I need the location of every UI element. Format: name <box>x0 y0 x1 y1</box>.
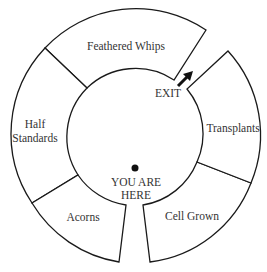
exit-arrow-icon <box>178 71 193 86</box>
label-feathered-whips: Feathered Whips <box>87 40 166 53</box>
exit-label: EXIT <box>155 87 181 99</box>
you-are-here-line1: YOU ARE <box>111 176 161 188</box>
label-half-standards-line1: Half <box>25 118 46 130</box>
you-are-here-dot-icon <box>132 165 139 172</box>
garden-ring-map: Feathered Whips Half Standards Acorns Ce… <box>0 0 267 272</box>
label-cell-grown: Cell Grown <box>165 210 219 222</box>
label-acorns: Acorns <box>66 211 100 223</box>
label-transplants: Transplants <box>206 122 260 135</box>
label-half-standards-line2: Standards <box>12 132 58 144</box>
you-are-here-line2: HERE <box>121 189 151 201</box>
